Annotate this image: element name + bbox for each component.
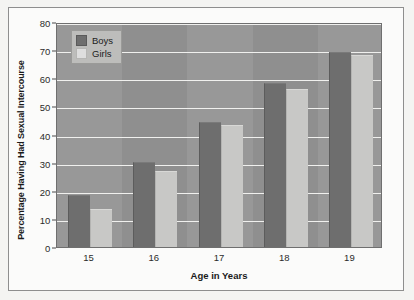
legend-item-boys: Boys <box>76 34 113 47</box>
bar-boys-age-18 <box>264 83 286 247</box>
bar-boys-age-17 <box>199 122 221 247</box>
y-tick-label: 30 <box>8 158 50 169</box>
legend-swatch-girls-icon <box>76 48 87 59</box>
bar-boys-age-15 <box>68 195 90 247</box>
chart-legend: Boys Girls <box>71 30 122 64</box>
bar-girls-age-16 <box>155 171 177 247</box>
y-tick-label: 0 <box>8 243 50 254</box>
y-tick-label: 80 <box>8 18 50 29</box>
bar-girls-age-15 <box>90 209 112 247</box>
bar-girls-age-19 <box>351 55 373 247</box>
y-tick-label: 60 <box>8 74 50 85</box>
legend-label-boys: Boys <box>92 35 113 46</box>
bar-boys-age-19 <box>329 52 351 247</box>
x-tick-label: 17 <box>199 252 239 263</box>
y-tick-label: 50 <box>8 102 50 113</box>
y-tick-label: 70 <box>8 46 50 57</box>
legend-label-girls: Girls <box>92 48 112 59</box>
x-tick-label: 16 <box>134 252 174 263</box>
bar-girls-age-18 <box>286 89 308 248</box>
y-tick-label: 20 <box>8 186 50 197</box>
bar-boys-age-16 <box>133 162 155 247</box>
chart-figure: Percentage Having Had Sexual Intercourse… <box>0 0 414 300</box>
plot-area: Boys Girls <box>56 23 382 248</box>
legend-swatch-boys-icon <box>76 35 87 46</box>
bar-girls-age-17 <box>221 125 243 247</box>
x-tick-label: 19 <box>329 252 369 263</box>
gridline <box>57 24 381 25</box>
y-tick-label: 40 <box>8 130 50 141</box>
x-axis-title: Age in Years <box>56 270 382 281</box>
legend-item-girls: Girls <box>76 47 113 60</box>
x-tick-label: 15 <box>69 252 109 263</box>
x-tick-label: 18 <box>264 252 304 263</box>
y-tick-label: 10 <box>8 214 50 225</box>
